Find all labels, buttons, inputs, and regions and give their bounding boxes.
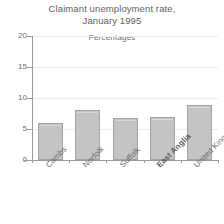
y-axis-tick-label: 20 xyxy=(5,32,27,40)
y-axis-tick-mark xyxy=(27,36,32,37)
chart-title-line-1: Claimant unemployment rate, xyxy=(0,3,224,15)
y-axis-tick-mark xyxy=(27,67,32,68)
y-axis-tick-mark xyxy=(27,129,32,130)
y-axis-tick-label: 5 xyxy=(5,125,27,133)
y-axis-tick-mark xyxy=(27,98,32,99)
claimant-unemployment-bar-chart: Claimant unemployment rate, January 1995… xyxy=(0,0,224,224)
gridline xyxy=(32,98,218,99)
y-axis-labels: 05101520 xyxy=(0,36,27,160)
gridline xyxy=(32,67,218,68)
gridline xyxy=(32,36,218,37)
y-axis-line xyxy=(32,36,33,160)
y-axis-tick-label: 10 xyxy=(5,94,27,102)
x-axis-category-labels: CambsNorfolkSuffolkEast AngliaUnited Kin… xyxy=(32,163,218,223)
plot-area xyxy=(32,36,218,160)
chart-title-line-2: January 1995 xyxy=(0,15,224,27)
y-axis-tick-mark xyxy=(27,160,32,161)
x-axis-tick-mark xyxy=(218,160,219,163)
chart-title: Claimant unemployment rate, January 1995 xyxy=(0,3,224,27)
y-axis-tick-label: 15 xyxy=(5,63,27,71)
